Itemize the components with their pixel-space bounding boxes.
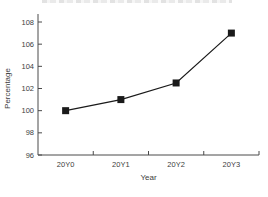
x-tick-label: 20Y2 <box>167 160 185 169</box>
y-tick-label: 106 <box>21 40 34 49</box>
data-point-marker <box>62 107 69 114</box>
data-point-marker <box>173 79 180 86</box>
line-chart-figure: 969810010210410610820Y020Y120Y220Y3YearP… <box>0 0 268 197</box>
y-axis-title: Percentage <box>3 67 12 108</box>
y-tick-label: 98 <box>26 128 34 137</box>
x-tick-label: 20Y0 <box>57 160 75 169</box>
data-point-marker <box>117 96 124 103</box>
cropped-title-remnant <box>42 0 232 3</box>
x-tick-label: 20Y3 <box>223 160 241 169</box>
series-line <box>66 33 232 111</box>
x-axis-title: Year <box>140 173 157 182</box>
y-tick-label: 102 <box>21 84 34 93</box>
y-tick-label: 104 <box>21 62 34 71</box>
y-tick-label: 96 <box>26 151 34 160</box>
data-point-marker <box>228 30 235 37</box>
y-tick-label: 100 <box>21 106 34 115</box>
y-tick-label: 108 <box>21 18 34 27</box>
x-tick-label: 20Y1 <box>112 160 130 169</box>
line-chart: 969810010210410610820Y020Y120Y220Y3YearP… <box>0 0 268 197</box>
